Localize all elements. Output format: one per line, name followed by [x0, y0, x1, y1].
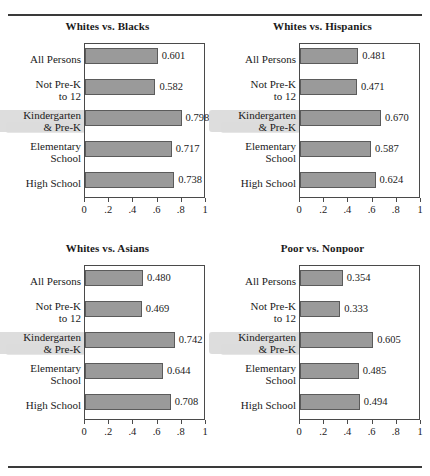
bar-row: 0.738 [85, 168, 204, 199]
axis-tick-label: 1 [417, 425, 422, 439]
axis-tick-label: 0 [296, 425, 301, 439]
category-label: Not Pre-K to 12 [0, 77, 81, 102]
highlight-band-lower [221, 344, 300, 355]
plot-area: 0.6010.5820.7980.7170.738 [84, 43, 205, 198]
axis-tick [84, 198, 85, 202]
highlight-band [0, 332, 87, 354]
bottom-rule [8, 466, 422, 468]
axis-tick [299, 198, 300, 202]
axis-tick-label: .4 [128, 203, 136, 217]
bar-value-label: 0.354 [347, 269, 371, 286]
bar-value-label: 0.644 [167, 362, 191, 379]
plot-area: 0.3540.3330.6050.4850.494 [299, 265, 420, 420]
category-label: Kindergarten & Pre-K [0, 108, 81, 133]
axis-tick-labels: 0.2.4.6.81 [84, 203, 205, 217]
highlight-band-lower [6, 344, 85, 355]
category-label: High School [0, 398, 81, 411]
bar-row: 0.601 [85, 44, 204, 75]
category-label: All Persons [0, 52, 81, 65]
bar-value-label: 0.494 [364, 393, 388, 410]
bar [85, 110, 182, 126]
axis-tick-label: .8 [177, 425, 185, 439]
bar [300, 301, 340, 317]
bar-row: 0.485 [300, 359, 419, 390]
bar-value-label: 0.717 [176, 140, 200, 157]
bar-row: 0.354 [300, 266, 419, 297]
bar-row: 0.333 [300, 297, 419, 328]
axis-tick [181, 420, 182, 424]
panel-title: Whites vs. Asians [0, 242, 215, 254]
axis-tick-label: .8 [177, 203, 185, 217]
bar [300, 79, 357, 95]
axis-tick [132, 420, 133, 424]
axis-tick-label: 1 [202, 425, 207, 439]
axis-tick-label: .2 [104, 425, 112, 439]
bar-row: 0.481 [300, 44, 419, 75]
bar-value-label: 0.469 [146, 300, 170, 317]
axis-tick [108, 420, 109, 424]
bar-value-label: 0.798 [186, 109, 210, 126]
axis-tick [108, 198, 109, 202]
category-label: Not Pre-K to 12 [0, 299, 81, 324]
bar [85, 270, 143, 286]
axis-tick-label: 1 [202, 203, 207, 217]
axis-tick-label: .2 [319, 425, 327, 439]
bar-value-label: 0.480 [147, 269, 171, 286]
axis-tick [84, 420, 85, 424]
axis-tick-labels: 0.2.4.6.81 [84, 425, 205, 439]
bar-value-label: 0.485 [363, 362, 387, 379]
axis-tick-label: .6 [153, 425, 161, 439]
category-label: Elementary School [0, 139, 81, 164]
highlight-band [209, 110, 302, 132]
axis-tick-label: .6 [153, 203, 161, 217]
bar [300, 394, 360, 410]
category-label: Kindergarten & Pre-K [0, 330, 81, 355]
bar-row: 0.494 [300, 390, 419, 421]
bar-value-label: 0.582 [159, 78, 183, 95]
bar-value-label: 0.333 [344, 300, 368, 317]
bar-value-label: 0.601 [162, 47, 186, 64]
chart-panel: Poor vs. NonpoorAll PersonsNot Pre-K to … [215, 238, 430, 464]
axis-tick-label: .4 [343, 425, 351, 439]
axis-tick [372, 420, 373, 424]
bar-value-label: 0.708 [175, 393, 199, 410]
axis-tick [157, 420, 158, 424]
bar [300, 110, 381, 126]
bar-row: 0.624 [300, 168, 419, 199]
bar-value-label: 0.605 [377, 331, 401, 348]
bar-value-label: 0.670 [385, 109, 409, 126]
axis-tick-label: .2 [319, 203, 327, 217]
axis-tick [420, 420, 421, 424]
bar [85, 394, 171, 410]
chart-panel: Whites vs. BlacksAll PersonsNot Pre-K to… [0, 16, 215, 238]
highlight-band [0, 110, 87, 132]
axis-tick-labels: 0.2.4.6.81 [299, 425, 420, 439]
axis-tick-labels: 0.2.4.6.81 [299, 203, 420, 217]
bar [85, 79, 155, 95]
chart-panel: Whites vs. HispanicsAll PersonsNot Pre-K… [215, 16, 430, 238]
axis-tick-label: .8 [392, 425, 400, 439]
bar [300, 48, 358, 64]
axis-tick [181, 198, 182, 202]
axis-tick-label: .6 [368, 203, 376, 217]
bar-row: 0.742 [85, 328, 204, 359]
axis-tick [323, 420, 324, 424]
chart-grid: Whites vs. BlacksAll PersonsNot Pre-K to… [0, 16, 430, 464]
highlight-band [209, 332, 302, 354]
bar [300, 172, 376, 188]
bar [300, 332, 373, 348]
axis-tick [347, 420, 348, 424]
axis-tick [372, 198, 373, 202]
bar-row: 0.717 [85, 137, 204, 168]
axis-tick-label: .4 [343, 203, 351, 217]
bar-value-label: 0.742 [179, 331, 203, 348]
bar [85, 141, 172, 157]
category-label: All Persons [0, 274, 81, 287]
axis-tick-label: .4 [128, 425, 136, 439]
highlight-band-lower [221, 122, 300, 133]
page-header-ghost [0, 0, 430, 12]
axis-tick [299, 420, 300, 424]
bar-row: 0.708 [85, 390, 204, 421]
panel-title: Whites vs. Blacks [0, 20, 215, 32]
axis-tick [205, 420, 206, 424]
